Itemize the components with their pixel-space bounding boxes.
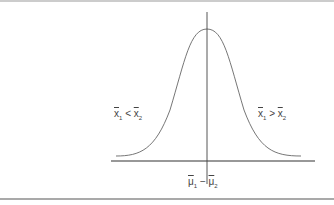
minus: − <box>200 176 206 187</box>
right-region-label: x1 > x2 <box>258 108 286 121</box>
sub2: 2 <box>214 183 217 189</box>
greater-than: > <box>269 108 275 119</box>
less-than: < <box>125 108 131 119</box>
diagram-canvas <box>0 0 334 205</box>
sub1: 1 <box>119 115 122 121</box>
sub1: 1 <box>194 183 197 189</box>
sub1: 1 <box>263 115 266 121</box>
sub2: 2 <box>283 115 286 121</box>
center-label: μ1 − μ2 <box>188 176 218 189</box>
left-region-label: x1 < x2 <box>114 108 142 121</box>
sub2: 2 <box>139 115 142 121</box>
normal-curve <box>116 29 301 156</box>
